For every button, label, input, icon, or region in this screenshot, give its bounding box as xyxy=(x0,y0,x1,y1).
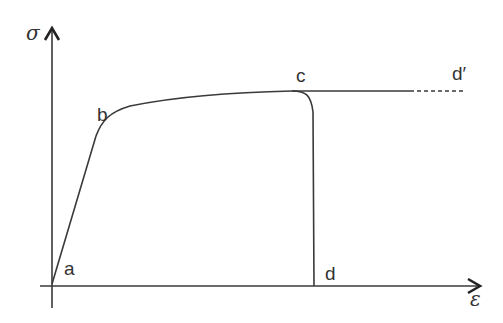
point-label-b: b xyxy=(97,104,108,125)
point-label-d: d xyxy=(325,263,336,284)
point-label-a: a xyxy=(64,258,75,279)
point-label-c: c xyxy=(296,65,306,86)
point-label-d-prime: d′ xyxy=(452,63,467,84)
y-axis-label: σ xyxy=(26,21,41,45)
stress-strain-curve xyxy=(52,91,314,286)
x-axis-label: ε xyxy=(470,287,481,311)
stress-strain-diagram: σ ε a b c d d′ xyxy=(0,0,503,323)
